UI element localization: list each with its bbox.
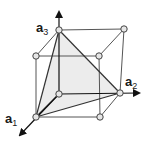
node-a2 <box>117 90 123 96</box>
label-a1: a1 <box>5 111 17 128</box>
label-a3: a3 <box>36 20 48 37</box>
node-a1a2a3 <box>96 53 102 59</box>
lattice-diagram: a3 a2 a1 <box>0 0 150 148</box>
axis-a1 <box>20 94 59 135</box>
node-a2a3 <box>121 26 127 32</box>
node-a1a3 <box>33 53 39 59</box>
label-a2: a2 <box>125 74 137 91</box>
node-a3 <box>56 27 62 33</box>
node-origin <box>56 91 62 97</box>
node-a1a2 <box>97 114 103 120</box>
node-a1 <box>33 114 39 120</box>
